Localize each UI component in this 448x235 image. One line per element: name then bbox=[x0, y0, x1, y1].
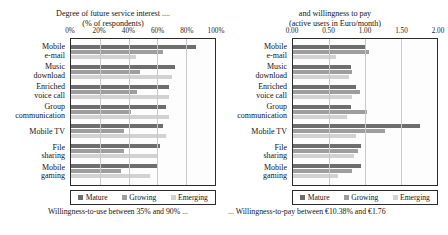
x-tick-label: 1.00 bbox=[359, 26, 372, 37]
legend-label-emerging: Emerging bbox=[400, 193, 430, 202]
category-label: Enriched voice call bbox=[226, 83, 290, 100]
legend-swatch-icon-growing bbox=[344, 195, 349, 200]
category-label: Mobile e-mail bbox=[226, 43, 290, 60]
bar-growing[interactable] bbox=[71, 50, 163, 54]
legend-item-emerging[interactable]: Emerging bbox=[171, 193, 208, 202]
legend-swatch-icon-mature bbox=[78, 195, 83, 200]
legend-swatch-icon-growing bbox=[122, 195, 127, 200]
bar-mature[interactable] bbox=[293, 164, 361, 168]
bar-emerging[interactable] bbox=[71, 174, 150, 178]
x-tick-label: 60% bbox=[151, 26, 164, 37]
x-tick-label: 20% bbox=[93, 26, 106, 37]
legend-swatch-icon-mature bbox=[300, 195, 305, 200]
x-tick-label: 40% bbox=[122, 26, 135, 37]
x-axis-ticks-left: 0%20%40%60%80%100% bbox=[70, 26, 216, 38]
legend-label-mature: Mature bbox=[308, 193, 330, 202]
x-tick-label: 80% bbox=[180, 26, 193, 37]
chart-panel-left: Degree of future service interest .... (… bbox=[4, 6, 222, 228]
chart-title-left: Degree of future service interest .... (… bbox=[4, 6, 222, 26]
chart-title-right: and willingness to pay (active users in … bbox=[226, 6, 444, 26]
bar-emerging[interactable] bbox=[71, 115, 169, 119]
legend-label-emerging: Emerging bbox=[178, 193, 208, 202]
bar-mature[interactable] bbox=[71, 45, 196, 49]
bar-group bbox=[71, 64, 215, 81]
bar-mature[interactable] bbox=[71, 124, 163, 128]
legend-label-mature: Mature bbox=[86, 193, 108, 202]
bar-emerging[interactable] bbox=[293, 154, 354, 158]
category-labels-left: Mobile e-mailMusic downloadEnriched voic… bbox=[4, 38, 68, 186]
footnote-right: ... Willingness-to-pay between €10.38% a… bbox=[228, 207, 386, 217]
x-tick-label: 1.50 bbox=[395, 26, 408, 37]
legend-swatch-icon-emerging bbox=[393, 195, 398, 200]
category-label: File sharing bbox=[4, 144, 68, 161]
x-tick-label: 0.00 bbox=[286, 26, 299, 37]
x-axis-ticks-right: 0.000.501.001.502.00 bbox=[292, 26, 438, 38]
bar-mature[interactable] bbox=[293, 105, 351, 109]
bar-mature[interactable] bbox=[293, 85, 356, 89]
bar-emerging[interactable] bbox=[293, 95, 352, 99]
bar-growing[interactable] bbox=[293, 149, 358, 153]
gridline bbox=[157, 39, 158, 185]
legend-item-growing[interactable]: Growing bbox=[344, 193, 379, 202]
category-label: Group communication bbox=[226, 104, 290, 121]
bar-emerging[interactable] bbox=[293, 174, 338, 178]
legend-item-growing[interactable]: Growing bbox=[122, 193, 157, 202]
plot-area-right bbox=[292, 38, 438, 186]
bar-mature[interactable] bbox=[71, 65, 175, 69]
gridline bbox=[186, 39, 187, 185]
legend-swatch-icon-emerging bbox=[171, 195, 176, 200]
bar-mature[interactable] bbox=[71, 164, 157, 168]
bar-groups-left bbox=[71, 39, 215, 185]
bar-growing[interactable] bbox=[293, 169, 352, 173]
category-label: Mobile e-mail bbox=[4, 43, 68, 60]
bar-emerging[interactable] bbox=[293, 134, 356, 138]
bar-growing[interactable] bbox=[293, 50, 369, 54]
bar-group bbox=[71, 44, 215, 61]
bar-group bbox=[71, 143, 215, 160]
bar-growing[interactable] bbox=[293, 110, 367, 114]
bar-group bbox=[71, 123, 215, 140]
gridline bbox=[129, 39, 130, 185]
category-label: Enriched voice call bbox=[4, 83, 68, 100]
bar-emerging[interactable] bbox=[71, 55, 136, 59]
bar-emerging[interactable] bbox=[71, 154, 157, 158]
bar-mature[interactable] bbox=[71, 85, 169, 89]
x-tick-label: 100% bbox=[208, 26, 225, 37]
bar-group bbox=[71, 163, 215, 180]
bar-emerging[interactable] bbox=[293, 115, 347, 119]
bar-mature[interactable] bbox=[293, 65, 351, 69]
bar-growing[interactable] bbox=[293, 90, 360, 94]
bar-growing[interactable] bbox=[71, 149, 124, 153]
legend-item-emerging[interactable]: Emerging bbox=[393, 193, 430, 202]
category-label: Music download bbox=[4, 63, 68, 80]
bar-group bbox=[71, 104, 215, 121]
bar-emerging[interactable] bbox=[71, 134, 166, 138]
legend-item-mature[interactable]: Mature bbox=[78, 193, 107, 202]
legend-label-growing: Growing bbox=[351, 193, 378, 202]
bar-growing[interactable] bbox=[293, 129, 385, 133]
bar-growing[interactable] bbox=[71, 129, 124, 133]
gridline bbox=[100, 39, 101, 185]
legend-label-growing: Growing bbox=[129, 193, 156, 202]
category-labels-right: Mobile e-mailMusic downloadEnriched voic… bbox=[226, 38, 290, 186]
bar-mature[interactable] bbox=[71, 144, 160, 148]
category-label: Music download bbox=[226, 63, 290, 80]
bar-emerging[interactable] bbox=[71, 95, 169, 99]
bar-growing[interactable] bbox=[293, 70, 352, 74]
x-tick-label: 0.50 bbox=[322, 26, 335, 37]
bar-mature[interactable] bbox=[293, 144, 361, 148]
bar-mature[interactable] bbox=[71, 105, 166, 109]
bar-growing[interactable] bbox=[71, 70, 140, 74]
footnote-left: Willingness-to-use between 35% and 90% .… bbox=[48, 207, 188, 217]
bar-growing[interactable] bbox=[71, 110, 131, 114]
chart-panel-right: and willingness to pay (active users in … bbox=[226, 6, 444, 228]
legend-item-mature[interactable]: Mature bbox=[300, 193, 329, 202]
legend-left: Mature Growing Emerging bbox=[70, 190, 216, 205]
gridline bbox=[401, 39, 402, 185]
bar-growing[interactable] bbox=[71, 90, 137, 94]
bar-emerging[interactable] bbox=[293, 75, 349, 79]
gridline bbox=[329, 39, 330, 185]
category-label: Mobile gaming bbox=[4, 164, 68, 181]
category-label: Mobile TV bbox=[4, 124, 68, 141]
bar-growing[interactable] bbox=[71, 169, 121, 173]
